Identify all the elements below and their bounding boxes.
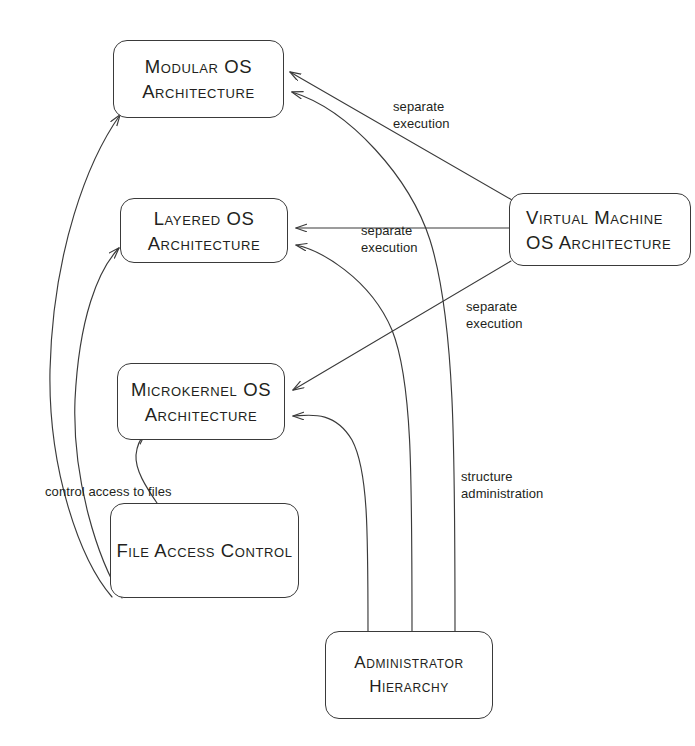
- edge-label-line-1: separate: [466, 299, 517, 314]
- node-modular-os-architecture[interactable]: Modular OS Architecture: [113, 40, 284, 118]
- edge-label-line-2: execution: [466, 315, 523, 332]
- edge-label-line-1: control access to files: [45, 484, 172, 499]
- node-administrator-hierarchy[interactable]: Administrator Hierarchy: [325, 631, 493, 719]
- edge-admin-to-microkernel: [293, 415, 368, 631]
- edge-admin-to-modular: [292, 92, 455, 631]
- edge-label-line-2: execution: [393, 115, 450, 132]
- node-label-line-1: Modular OS: [145, 54, 252, 79]
- node-virtual-machine-os-architecture[interactable]: Virtual Machine OS Architecture: [509, 193, 691, 266]
- edge-label-line-1: separate: [393, 99, 444, 114]
- node-label-line-2: Architecture: [142, 79, 255, 104]
- node-file-access-control[interactable]: File Access Control: [110, 503, 299, 598]
- edge-label-structure-administration: structure administration: [461, 468, 543, 502]
- node-label-line-1: Administrator: [354, 651, 463, 675]
- node-layered-os-architecture[interactable]: Layered OS Architecture: [120, 198, 288, 263]
- node-microkernel-os-architecture[interactable]: Microkernel OS Architecture: [117, 363, 285, 440]
- node-label-line-1: File Access Control: [116, 538, 292, 563]
- edge-label-line-2: administration: [461, 485, 543, 502]
- edge-label-line-1: structure: [461, 469, 512, 484]
- edge-label-control-access-to-files: control access to files: [45, 483, 172, 500]
- edge-label-separate-execution-middle: separate execution: [361, 222, 418, 256]
- edge-label-separate-execution-bottom: separate execution: [466, 298, 523, 332]
- node-label-line-1: Microkernel OS: [131, 377, 271, 402]
- diagram-canvas: Modular OS Architecture Layered OS Archi…: [0, 0, 695, 746]
- node-label-line-2: Architecture: [148, 231, 261, 256]
- edge-label-line-2: execution: [361, 239, 418, 256]
- node-label-line-2: OS Architecture: [526, 230, 671, 255]
- edge-label-line-1: separate: [361, 223, 412, 238]
- edge-admin-to-layered: [296, 245, 412, 631]
- edge-label-separate-execution-top: separate execution: [393, 98, 450, 132]
- node-label-line-2: Hierarchy: [369, 675, 449, 699]
- node-label-line-1: Layered OS: [154, 206, 255, 231]
- node-label-line-1: Virtual Machine: [526, 205, 663, 230]
- node-label-line-2: Architecture: [145, 402, 258, 427]
